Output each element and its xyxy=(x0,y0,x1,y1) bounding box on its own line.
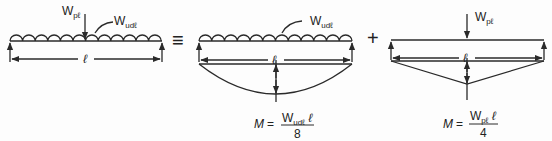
svg-text:4: 4 xyxy=(480,126,487,140)
point-load-label: Wpℓ xyxy=(475,10,494,26)
udl-load-arcs xyxy=(199,35,352,41)
udl-leader xyxy=(282,21,302,33)
svg-text:M=: M= xyxy=(443,117,463,131)
svg-text:M=: M= xyxy=(254,117,274,131)
udl-leader xyxy=(95,22,113,33)
span-label: ℓ xyxy=(83,52,88,66)
plus-symbol: + xyxy=(367,27,379,49)
equivalence-symbol: ≡ xyxy=(172,29,184,51)
panel2-labels: Wudℓ ℓ M= Wudℓ ℓ 8 xyxy=(254,14,333,141)
udl-load-label: Wudℓ xyxy=(114,14,137,30)
svg-text:Wpℓ ℓ: Wpℓ ℓ xyxy=(470,109,497,125)
point-load-label: Wpℓ xyxy=(62,4,81,20)
udl-load-label: Wudℓ xyxy=(310,14,333,30)
panel3-labels: Wpℓ ℓ M= Wpℓ ℓ 4 xyxy=(443,10,498,140)
moment-formula-udl: M= Wudℓ ℓ 8 xyxy=(254,111,314,141)
panel1-labels: Wpℓ Wudℓ ℓ xyxy=(62,4,137,66)
moment-formula-point: M= Wpℓ ℓ 4 xyxy=(443,109,498,140)
beam-superposition-diagram: Wpℓ Wudℓ ℓ ≡ Wudℓ ℓ M= Wudℓ ℓ 8 + xyxy=(0,0,552,141)
svg-text:8: 8 xyxy=(294,127,301,141)
panel-point-loading xyxy=(391,14,544,100)
